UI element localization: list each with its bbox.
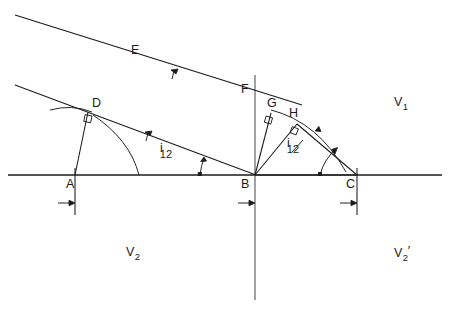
label-angle-i12-right-sub: 12 — [287, 143, 299, 155]
arc-g-to-c — [271, 110, 346, 172]
label-angle-i12-left: i12 — [160, 142, 175, 155]
arrow-head-c — [351, 200, 357, 206]
arrow-head-a — [69, 200, 75, 206]
refraction-diagram: A B C D E F G H V1 V2 V2′ i12 i12 — [0, 0, 449, 320]
angle-arc-right-foot — [318, 172, 321, 175]
wavefront-segment-hc — [297, 124, 357, 175]
label-point-f: F — [241, 83, 249, 96]
label-region-v1-base: V — [394, 95, 402, 109]
angle-arc-left-arrow — [201, 157, 207, 162]
label-region-v1-sub: 1 — [403, 101, 408, 112]
label-region-v2p-base: V — [394, 246, 402, 260]
label-angle-i12-left-sub: 12 — [160, 148, 172, 160]
arc-g-direction-arrow — [315, 126, 321, 131]
label-region-v2-sub: 2 — [135, 251, 140, 262]
ray-direction-arrow-upper — [171, 69, 178, 74]
angle-arc-left-foot — [198, 172, 201, 175]
label-point-a: A — [66, 178, 74, 191]
label-point-g: G — [267, 97, 277, 110]
label-region-v2-base: V — [126, 245, 134, 259]
arc-d-to-baseline — [93, 115, 139, 175]
label-region-v1: V1 — [394, 96, 408, 109]
label-point-b: B — [241, 178, 249, 191]
label-point-d: D — [92, 97, 101, 110]
angle-arc-right-arrow — [332, 148, 338, 155]
label-region-v2: V2 — [126, 246, 140, 259]
arrow-head-b — [249, 200, 255, 206]
label-point-e: E — [131, 44, 139, 57]
incident-ray-upper — [15, 15, 302, 105]
ray-direction-arrow-upper-stem — [172, 71, 174, 79]
label-point-c: C — [346, 178, 355, 191]
diagram-canvas — [0, 0, 449, 320]
right-angle-marker-d — [84, 115, 92, 123]
label-point-h: H — [289, 107, 298, 120]
label-angle-i12-right: i12 — [287, 137, 302, 150]
incident-ray-lower — [15, 85, 256, 175]
label-region-v2-prime: V2′ — [394, 246, 410, 260]
label-region-v2p-prime-mark: ′ — [408, 243, 410, 258]
